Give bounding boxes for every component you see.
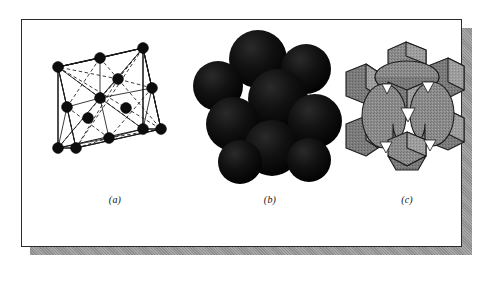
figure-plate: (a) (21, 19, 462, 247)
fcc-unit-cell-wireframe (30, 20, 200, 190)
panel-a-caption: (a) (30, 194, 200, 205)
panel-c-caption: (c) (322, 194, 489, 205)
atom-group (53, 43, 167, 154)
panel-c-space-filling-model: (c) (322, 20, 489, 246)
panel-a-unit-cell: (a) (30, 20, 200, 246)
fcc-space-filling-polyhedra (322, 20, 489, 190)
figure-root: (a) (0, 0, 489, 283)
